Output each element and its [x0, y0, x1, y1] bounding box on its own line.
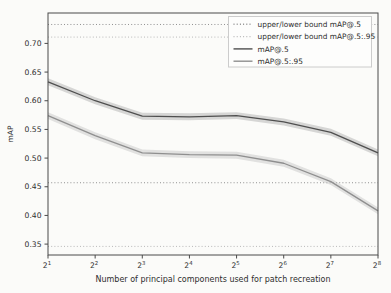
- y-tick-label: 0.40: [25, 211, 42, 220]
- legend-label: upper/lower bound mAP@.5:.95: [258, 32, 376, 41]
- y-axis: 0.350.400.450.500.550.600.650.70: [25, 39, 48, 249]
- legend-label: mAP@.5:.95: [258, 57, 304, 66]
- y-tick-label: 0.70: [25, 39, 42, 48]
- map-vs-components-chart: 0.350.400.450.500.550.600.650.70 2122232…: [0, 0, 391, 293]
- x-tick-label: 25: [231, 260, 239, 270]
- confidence-band: [48, 112, 378, 214]
- y-tick-label: 0.65: [25, 68, 42, 77]
- legend: upper/lower bound mAP@.5upper/lower boun…: [229, 17, 376, 68]
- x-tick-label: 27: [326, 260, 334, 270]
- legend-label: upper/lower bound mAP@.5: [258, 20, 362, 29]
- y-axis-title: mAP: [6, 125, 15, 142]
- x-tick-label: 22: [90, 260, 98, 270]
- x-tick-label: 23: [137, 260, 145, 270]
- confidence-band: [48, 78, 378, 156]
- confidence-bands: [48, 78, 378, 214]
- y-tick-label: 0.35: [25, 240, 42, 249]
- series-lines: [48, 82, 378, 211]
- y-tick-label: 0.55: [25, 125, 42, 134]
- x-axis-title: Number of principal components used for …: [95, 275, 330, 284]
- x-tick-label: 28: [373, 260, 382, 270]
- y-tick-label: 0.60: [25, 96, 42, 105]
- x-tick-label: 26: [279, 260, 288, 270]
- legend-label: mAP@.5: [258, 45, 289, 54]
- y-tick-label: 0.50: [25, 154, 42, 163]
- x-tick-label: 21: [43, 260, 51, 270]
- x-axis: 2122232425262728: [43, 255, 382, 270]
- y-tick-label: 0.45: [25, 182, 42, 191]
- x-tick-label: 24: [184, 260, 193, 270]
- figure: 0.350.400.450.500.550.600.650.70 2122232…: [0, 0, 391, 293]
